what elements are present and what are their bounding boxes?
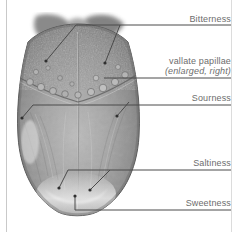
leader-sourness-right bbox=[117, 102, 129, 116]
leader-saltiness-right bbox=[90, 170, 110, 190]
label-sourness: Sourness bbox=[192, 93, 231, 104]
leader-bitterness-left bbox=[46, 25, 76, 61]
label-saltiness: Saltiness bbox=[193, 158, 231, 169]
leader-bitterness-right bbox=[105, 25, 120, 63]
label-vallate-papillae-note: (enlarged, right) bbox=[165, 66, 231, 77]
leader-endpoint-dots bbox=[20, 59, 118, 197]
tongue-taste-diagram: Bitterness vallate papillae (enlarged, r… bbox=[0, 0, 237, 232]
leader-saltiness-left bbox=[59, 170, 68, 188]
leader-sourness-left bbox=[22, 105, 33, 118]
label-bitterness: Bitterness bbox=[189, 14, 231, 25]
label-sweetness: Sweetness bbox=[186, 198, 231, 209]
